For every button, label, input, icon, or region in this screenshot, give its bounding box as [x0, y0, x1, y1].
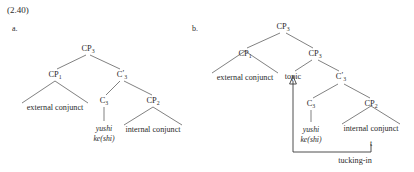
tree-b-letter: b. [192, 24, 198, 33]
tree-a-branch-cbar3-cp2 [124, 81, 152, 95]
tree-a-leaf-internal-conjunct: internal conjunct [125, 126, 180, 134]
tree-branches-overlay [0, 0, 414, 172]
tree-b-cp1-label: CP [238, 49, 248, 58]
tree-b-branch-cbar3-c3 [313, 84, 338, 98]
tree-a-letter: a. [12, 24, 18, 33]
figure-container: (2.40) a. CP3 CP1 C′3 C3 CP2 external co… [0, 0, 414, 172]
tree-b-head-lexical: yushi ke(shi) [300, 125, 321, 144]
tree-b-node-cp2: CP2 [364, 100, 377, 108]
tree-a-c3-label: C [100, 96, 106, 105]
tree-b-head-line2: ke(shi) [300, 135, 321, 145]
tree-a-cp1-sub: 1 [59, 74, 62, 80]
tree-a-head-line2: ke(shi) [93, 134, 114, 144]
tree-a-cp2-sub: 2 [157, 100, 160, 106]
tree-b-root-sub: 3 [287, 26, 290, 32]
tree-b-cbar3-label: C [336, 72, 342, 81]
tree-b-cp3-label: CP [308, 49, 318, 58]
tree-b-leaf-internal-conjunct: internal conjunct [343, 125, 398, 133]
tree-a-cbar3-sub: 3 [124, 74, 127, 80]
tree-b-branch-cp3-cbar3 [318, 60, 339, 71]
tree-a-cbar3-label: C [117, 70, 123, 79]
tree-b-node-cbar3: C′3 [336, 73, 346, 81]
tree-b-root-label: CP [276, 22, 286, 31]
tree-b-cp3-sub: 3 [319, 53, 322, 59]
tree-a-cp2-label: CP [146, 96, 156, 105]
tree-a-node-cp1: CP1 [48, 71, 61, 79]
tree-a-node-cbar3: C′3 [117, 71, 127, 79]
tree-b-triangle-cp2 [342, 106, 400, 124]
tree-a-root-sub: 3 [92, 48, 95, 54]
tree-b-cp2-label: CP [364, 99, 374, 108]
tree-b-leaf-topic: topic [285, 73, 301, 81]
tree-b-branch-root-cp1 [247, 33, 280, 48]
tree-a-branch-root-cp1 [57, 55, 86, 69]
tree-a-c3-sub: 3 [105, 100, 108, 106]
tree-a-branch-root-cbar3 [90, 55, 120, 69]
tree-b-node-cp1: CP1 [238, 50, 251, 58]
tree-a-triangle-cp2 [124, 107, 182, 125]
tree-b-node-c3: C3 [307, 100, 316, 108]
tree-b-c3-label: C [307, 99, 313, 108]
tree-b-leaf-external-conjunct: external conjunct [217, 74, 274, 82]
tree-a-root-label: CP [81, 44, 91, 53]
tree-a-leaf-external-conjunct: external conjunct [27, 104, 84, 112]
tree-a-node-root: CP3 [81, 45, 94, 53]
tree-a-node-c3: C3 [100, 97, 109, 105]
example-number: (2.40) [7, 5, 29, 15]
tree-b-head-line1: yushi [300, 125, 321, 135]
tree-a-head-line1: yushi [93, 124, 114, 134]
tree-a-branch-cbar3-c3 [106, 81, 120, 95]
tree-b-annotation-tucking-in: tucking-in [338, 157, 372, 165]
tree-b-trace: t [370, 139, 372, 148]
tree-b-c3-sub: 3 [312, 103, 315, 109]
tree-b-branch-cp3-topic [295, 60, 312, 71]
tree-a-triangle-cp1 [22, 81, 88, 103]
tree-b-branch-root-cp3 [286, 33, 313, 48]
tree-b-cp2-sub: 2 [375, 103, 378, 109]
tree-a-head-lexical: yushi ke(shi) [93, 124, 114, 143]
tree-b-cp1-sub: 1 [249, 53, 252, 59]
tree-b-cbar3-sub: 3 [343, 76, 346, 82]
tree-a-cp1-label: CP [48, 70, 58, 79]
tree-a-node-cp2: CP2 [146, 97, 159, 105]
tree-b-node-cp3: CP3 [308, 50, 321, 58]
tree-b-node-root: CP3 [276, 23, 289, 31]
tree-b-branch-cbar3-cp2 [344, 84, 370, 98]
